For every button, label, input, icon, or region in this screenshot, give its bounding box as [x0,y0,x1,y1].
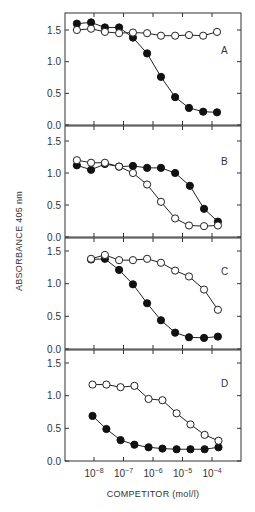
data-point-open [185,273,192,280]
data-point-open [157,259,164,266]
data-point-open [185,31,192,38]
panels-group: 0.00.51.01.5A0.00.51.01.5B0.00.51.01.5C0… [47,13,241,467]
series-line-filled [93,416,219,449]
x-axis-label: COMPETITOR (mol/l) [107,489,200,499]
x-tick-label: 10−5 [173,467,192,479]
data-point-open [89,381,96,388]
data-point-filled [186,182,193,189]
y-tick-label: 0.5 [47,311,61,322]
panel-letter: C [221,266,228,277]
data-point-filled [214,333,221,340]
data-point-open [144,255,151,262]
data-point-open [129,169,136,176]
panel-frame [65,238,241,349]
data-point-filled [172,329,179,336]
y-tick-label: 1.0 [47,390,61,401]
x-tick-label: 10−7 [114,467,133,479]
data-point-open [200,32,207,39]
panel-a: 0.00.51.01.5A [47,13,241,131]
panel-letter: D [221,378,228,389]
data-point-open [214,306,221,313]
data-point-filled [145,444,152,451]
y-tick-label: 1.5 [47,136,61,147]
data-point-filled [129,162,136,169]
data-point-open [101,28,108,35]
y-axis-label: ABSORBANCE 405 nm [14,191,24,291]
data-point-open [101,251,108,258]
data-point-open [87,159,94,166]
data-point-filled [89,412,96,419]
data-point-filled [157,73,164,80]
data-point-filled [131,441,138,448]
data-point-open [131,382,138,389]
y-tick-label: 0.5 [47,200,61,211]
data-point-open [201,431,208,438]
data-point-open [103,381,110,388]
data-point-open [87,255,94,262]
data-point-filled [187,446,194,453]
panel-letter: A [221,45,228,56]
data-point-filled [185,104,192,111]
data-point-filled [159,445,166,452]
data-point-filled [200,334,207,341]
competition-binding-chart: 0.00.51.01.5A0.00.51.01.5B0.00.51.01.5C0… [0,0,255,512]
y-tick-label: 0.0 [47,344,61,355]
panel-frame [65,350,241,461]
data-point-open [129,29,136,36]
data-point-filled [117,436,124,443]
panel-c: 0.00.51.01.5C [47,238,241,355]
data-point-filled [200,205,207,212]
x-tick-label: 10−8 [84,467,103,479]
data-point-open [200,286,207,293]
series-line-filled [91,259,218,338]
y-tick-label: 1.0 [47,56,61,67]
data-point-open [200,223,207,230]
data-point-filled [115,266,122,273]
data-point-open [157,198,164,205]
data-point-filled [213,109,220,116]
data-point-open [172,267,179,274]
data-point-open [159,397,166,404]
data-point-open [187,421,194,428]
y-tick-label: 1.0 [47,168,61,179]
data-point-open [213,28,220,35]
data-point-open [117,384,124,391]
data-point-open [73,157,80,164]
data-point-filled [173,446,180,453]
y-tick-label: 0.5 [47,423,61,434]
panel-d: 0.00.51.01.5D [47,350,241,467]
data-point-open [115,163,122,170]
data-point-filled [144,50,151,57]
data-point-open [144,181,151,188]
data-point-filled [172,169,179,176]
panel-b: 0.00.51.01.5B [47,126,241,243]
panel-letter: B [221,156,228,167]
y-tick-label: 0.0 [47,456,61,467]
data-point-open [144,30,151,37]
data-point-filled [129,281,136,288]
x-tick-label: 10−4 [202,467,221,479]
data-point-open [185,222,192,229]
data-point-filled [144,164,151,171]
series-line-filled [77,164,218,222]
data-point-filled [201,446,208,453]
data-point-open [215,437,222,444]
data-point-filled [172,94,179,101]
y-tick-label: 1.5 [47,246,61,257]
data-point-open [172,215,179,222]
y-tick-label: 0.0 [47,120,61,131]
data-point-filled [87,166,94,173]
x-tick-label: 10−6 [143,467,162,479]
y-tick-label: 1.5 [47,358,61,369]
data-point-filled [144,300,151,307]
data-point-open [129,257,136,264]
data-point-open [172,32,179,39]
data-point-open [73,26,80,33]
y-tick-label: 0.0 [47,232,61,243]
data-point-open [101,159,108,166]
data-point-open [214,222,221,229]
y-tick-label: 1.5 [47,25,61,36]
data-point-open [115,30,122,37]
data-point-open [115,257,122,264]
data-point-filled [103,425,110,432]
